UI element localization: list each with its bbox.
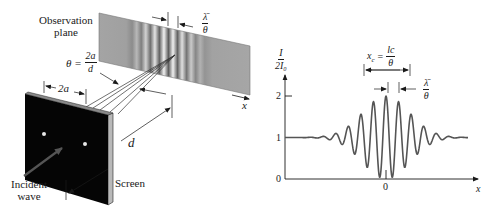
slit-left — [42, 132, 46, 136]
incident-wave-label-line2: wave — [6, 191, 52, 202]
x-tick-0: 0 — [383, 182, 388, 192]
plane-fringe-spacing — [152, 12, 193, 28]
y-axis-label: I 2I₀ — [275, 48, 287, 71]
coherence-length-label: xc = lc θ — [367, 45, 395, 68]
chart-fringe-spacing-label: λ̄ θ — [423, 78, 429, 101]
observation-plane-label-line2: plane — [35, 27, 97, 38]
slit-right — [83, 142, 87, 146]
incident-wave-label-line1: Incident — [6, 179, 52, 190]
distance-label: d — [128, 137, 135, 148]
y-tick-2: 2 — [276, 91, 281, 101]
plane-x-label: x — [242, 100, 247, 111]
screen-edge — [108, 113, 113, 205]
incident-wave-label: Incident wave — [6, 179, 52, 202]
screen-label: Screen — [115, 178, 145, 189]
y-tick-0: 0 — [276, 174, 281, 184]
slit-separation-label: 2a — [58, 83, 69, 94]
chart-x-label: x — [476, 184, 480, 194]
angle-label: θ = 2a d — [66, 51, 97, 74]
observation-plane — [99, 13, 250, 95]
plane-fringe-spacing-label: λ̄ θ — [202, 12, 208, 35]
intensity-curve — [285, 96, 468, 177]
chart-fringe-spacing — [374, 82, 416, 93]
observation-plane-label: Observation plane — [35, 15, 97, 38]
angle-pointers — [100, 73, 166, 94]
observation-plane-label-line1: Observation — [35, 15, 97, 26]
y-tick-1: 1 — [276, 133, 281, 143]
